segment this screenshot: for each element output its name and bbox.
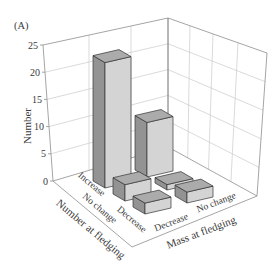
bar-front-face — [147, 117, 173, 178]
y-tick-label: 15 — [32, 94, 42, 105]
vertical-gridline — [208, 34, 213, 169]
y-tick-label: 20 — [30, 67, 40, 78]
y-tick-label: 25 — [28, 40, 38, 51]
depth-category-label-decrease: Decrease — [153, 210, 190, 233]
horizontal-gridline — [45, 44, 265, 82]
y-tick-label: 0 — [43, 176, 48, 187]
bar-side-face — [135, 116, 147, 178]
bars — [93, 50, 213, 214]
3d-bar-chart: 0510152025 (A) Number Number at fledging… — [0, 0, 277, 273]
bar-increase-decrease — [93, 50, 131, 188]
bar-side-face — [93, 56, 105, 188]
bar-increase-no-change — [135, 110, 173, 178]
bar-front-face — [105, 57, 131, 188]
vertical-gridline — [231, 43, 238, 182]
vertical-gridline — [188, 26, 190, 158]
right-wall — [168, 18, 267, 196]
y-axis-title: Number — [21, 108, 33, 144]
panel-label: (A) — [14, 20, 29, 32]
y-tick-label: 5 — [41, 148, 46, 159]
y-tick-label: 10 — [34, 121, 44, 132]
horizontal-gridline — [47, 70, 263, 111]
